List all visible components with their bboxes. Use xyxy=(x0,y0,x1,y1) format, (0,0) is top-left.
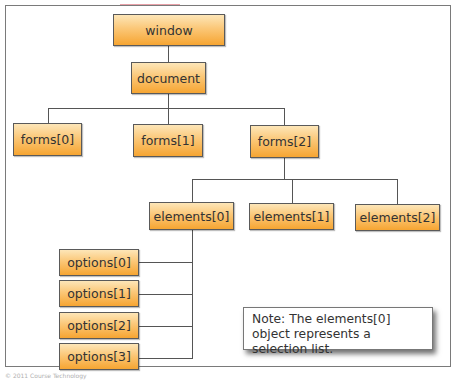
node-options-0: options[0] xyxy=(59,249,139,276)
connector-forms2 xyxy=(284,108,285,125)
note-callout: Note: The elements[0] object represents … xyxy=(243,307,433,350)
node-elements-2: elements[2] xyxy=(355,204,440,231)
connector-elements2 xyxy=(397,179,398,204)
connector-options0 xyxy=(139,262,192,263)
connector-options2 xyxy=(139,326,192,327)
connector-elements0 xyxy=(192,179,193,203)
connector-document-down xyxy=(168,93,169,108)
connector-options3 xyxy=(139,358,192,359)
node-elements-0: elements[0] xyxy=(149,202,234,230)
connector-elements0-down xyxy=(192,229,193,359)
connector-options1 xyxy=(139,294,192,295)
node-document: document xyxy=(131,62,206,94)
node-elements-1: elements[1] xyxy=(249,203,334,230)
node-options-1: options[1] xyxy=(59,280,139,307)
connector-window-document xyxy=(168,45,169,62)
connector-elements-bar xyxy=(192,179,398,180)
connector-forms1 xyxy=(168,108,169,124)
connector-forms-bar xyxy=(48,108,285,109)
node-options-2: options[2] xyxy=(59,312,139,339)
copyright-text: © 2011 Course Technology xyxy=(5,372,87,379)
node-forms-1: forms[1] xyxy=(133,124,203,157)
node-forms-2: forms[2] xyxy=(250,125,319,158)
connector-elements1 xyxy=(292,179,293,203)
node-window: window xyxy=(113,14,225,46)
connector-forms2-bar xyxy=(284,156,285,180)
connector-forms0 xyxy=(48,108,49,123)
node-forms-0: forms[0] xyxy=(13,123,82,156)
node-options-3: options[3] xyxy=(59,343,139,370)
